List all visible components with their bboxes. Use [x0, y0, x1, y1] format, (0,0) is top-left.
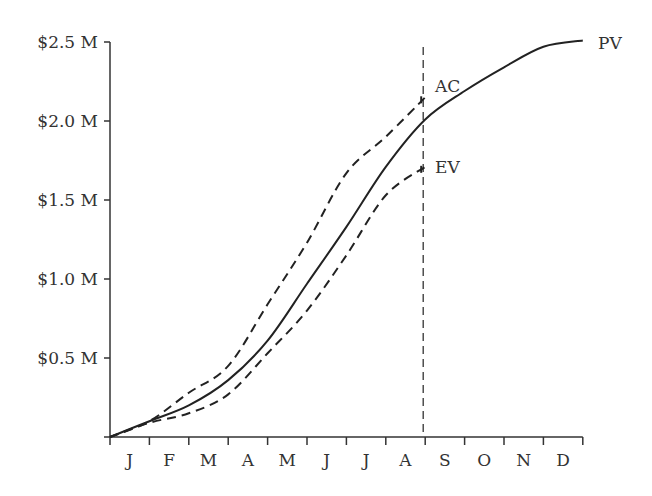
y-tick-label: $1.5 M [37, 190, 98, 210]
x-tick-label: A [241, 450, 255, 470]
x-tick-label: S [439, 450, 451, 470]
pv-line [110, 40, 583, 437]
ac-label: AC [434, 76, 460, 96]
y-axis-ticks: $0.5 M$1.0 M$1.5 M$2.0 M$2.5 M [37, 32, 110, 368]
x-tick-label: N [516, 450, 531, 470]
x-tick-label: A [398, 450, 412, 470]
x-axis-ticks: JFMAMJJASOND [110, 437, 583, 470]
ev-label: EV [435, 157, 460, 177]
ev-line [110, 167, 425, 437]
x-tick-label: D [556, 450, 570, 470]
y-tick-label: $2.0 M [37, 111, 98, 131]
y-tick-label: $0.5 M [37, 348, 98, 368]
axes [104, 42, 583, 437]
x-tick-label: O [477, 450, 491, 470]
x-tick-label: M [200, 450, 217, 470]
y-tick-label: $2.5 M [37, 32, 98, 52]
ac-line [110, 97, 425, 437]
x-tick-label: J [321, 450, 330, 470]
y-tick-label: $1.0 M [37, 269, 98, 289]
x-tick-label: M [279, 450, 296, 470]
x-tick-label: J [361, 450, 370, 470]
x-tick-label: J [124, 450, 133, 470]
pv-label: PV [598, 33, 622, 53]
x-tick-label: F [163, 450, 175, 470]
earned-value-chart: $0.5 M$1.0 M$1.5 M$2.0 M$2.5 M JFMAMJJAS… [0, 0, 652, 496]
